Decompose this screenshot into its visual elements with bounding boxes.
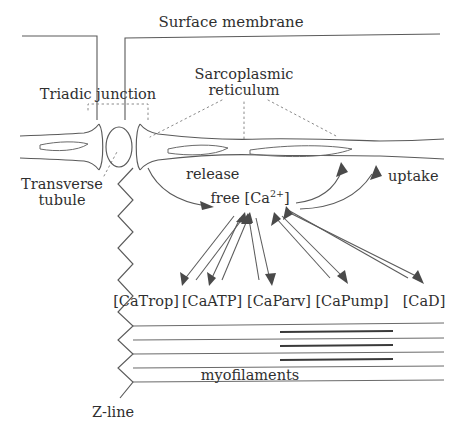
buffer-label-capump: [CaPump] bbox=[315, 293, 388, 309]
free-calcium-prefix: free [Ca bbox=[210, 190, 269, 206]
sr-label-line2: reticulum bbox=[195, 82, 294, 98]
tt-label-line2: tubule bbox=[21, 192, 103, 208]
release-label: release bbox=[186, 166, 239, 182]
free-calcium-suffix: ] bbox=[284, 190, 290, 206]
buffer-label-caparv: [CaParv] bbox=[247, 293, 311, 309]
tt-label-line1: Transverse bbox=[21, 176, 103, 192]
thick-filaments bbox=[280, 331, 393, 360]
uptake-arrowhead-2 bbox=[370, 165, 382, 180]
membrane-band bbox=[20, 124, 444, 170]
uptake-arrows bbox=[296, 170, 372, 209]
uptake-label: uptake bbox=[388, 168, 438, 184]
buffer-exchange-arrows bbox=[184, 210, 420, 280]
z-line-label: Z-line bbox=[92, 404, 134, 420]
z-line-zigzag bbox=[118, 168, 133, 398]
buffer-label-cad: [CaD] bbox=[403, 293, 446, 309]
myofilaments-label: myofilaments bbox=[201, 367, 300, 383]
sr-leader-lines bbox=[150, 100, 338, 140]
uptake-arrowhead-1 bbox=[336, 162, 348, 177]
triadic-junction-label: Triadic junction bbox=[40, 86, 156, 102]
surface-membrane-label: Surface membrane bbox=[158, 14, 303, 31]
free-calcium-label: free [Ca2+] bbox=[210, 190, 289, 206]
buffer-label-catrop: [CaTrop] bbox=[113, 293, 179, 309]
free-calcium-charge: 2+ bbox=[270, 188, 284, 199]
sarcoplasmic-reticulum-label: Sarcoplasmic reticulum bbox=[195, 66, 294, 98]
buffer-label-caatp: [CaATP] bbox=[182, 293, 242, 309]
figure-canvas: Surface membrane Triadic junction Sarcop… bbox=[0, 0, 462, 435]
sr-label-line1: Sarcoplasmic bbox=[195, 66, 294, 82]
sr-lumen-vesicles bbox=[40, 142, 352, 157]
transverse-tubule-label: Transverse tubule bbox=[21, 176, 103, 208]
